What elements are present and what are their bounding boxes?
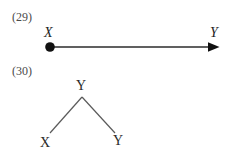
diagram-page: (29) X Y (30) Y X Y: [0, 0, 241, 157]
tree-branch-right: [82, 97, 115, 133]
figure-30: (30) Y X Y: [0, 0, 241, 157]
figure-30-root-label: Y: [76, 79, 86, 93]
figure-30-left-leaf-label: X: [40, 136, 50, 150]
figure-30-right-leaf-label: Y: [113, 134, 123, 148]
tree-branch-left: [50, 97, 82, 133]
